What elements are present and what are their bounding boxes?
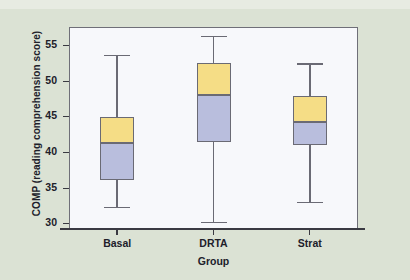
box-lower-quartile	[197, 95, 231, 142]
upper-whisker-line	[213, 36, 215, 64]
x-axis-title: Group	[69, 255, 358, 267]
y-axis-tick-label: 55	[45, 38, 57, 50]
x-axis-tick-label: Strat	[265, 237, 355, 249]
upper-whisker-cap	[104, 55, 130, 57]
upper-whisker-line	[309, 63, 311, 96]
lower-whisker-line	[116, 180, 118, 207]
x-axis-tick-label: Basal	[72, 237, 162, 249]
y-axis-tick-label: 50	[45, 74, 57, 86]
lower-whisker-cap	[297, 202, 323, 204]
lower-whisker-cap	[104, 207, 130, 209]
y-axis-tick-mark	[63, 45, 69, 46]
y-axis-title: COMP (reading comprehension score)	[31, 24, 42, 224]
x-axis-tick-mark	[213, 230, 215, 235]
y-axis-tick-label: 35	[45, 181, 57, 193]
box-upper-quartile	[293, 96, 327, 122]
scan-top-strip	[0, 0, 410, 9]
upper-whisker-cap	[297, 63, 323, 65]
x-axis-tick-label: DRTA	[169, 237, 259, 249]
median-line	[293, 121, 327, 122]
x-axis-tick-mark	[116, 230, 118, 235]
y-axis-tick-mark	[63, 223, 69, 224]
upper-whisker-cap	[201, 36, 227, 38]
y-axis-tick-label: 40	[45, 145, 57, 157]
lower-whisker-cap	[201, 222, 227, 224]
x-axis-tick-mark	[309, 230, 311, 235]
median-line	[100, 143, 134, 144]
box-upper-quartile	[100, 117, 134, 143]
lower-whisker-line	[309, 145, 311, 202]
y-axis-tick-label: 30	[45, 216, 57, 228]
median-line	[197, 94, 231, 95]
lower-whisker-line	[213, 142, 215, 222]
box-upper-quartile	[197, 63, 231, 94]
y-axis-tick-mark	[63, 81, 69, 82]
upper-whisker-line	[116, 55, 118, 117]
y-axis-tick-mark	[63, 152, 69, 153]
box-lower-quartile	[293, 122, 327, 145]
y-axis-tick-label: 45	[45, 109, 57, 121]
y-axis-tick-mark	[63, 116, 69, 117]
box-lower-quartile	[100, 143, 134, 179]
y-axis-tick-mark	[63, 188, 69, 189]
boxplot-figure: COMP (reading comprehension score) 30354…	[0, 0, 410, 280]
